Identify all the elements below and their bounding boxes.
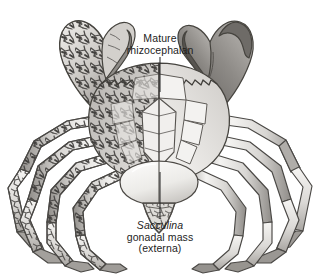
- label-sacculina-gonadal-mass: Sacculina gonadal mass (externa): [112, 220, 208, 255]
- label-mature-rhizocephalan: Mature rhizocephalan: [118, 33, 202, 56]
- figure-root: Mature rhizocephalan Sacculina gonadal m…: [0, 0, 319, 275]
- label-mature-line1: Mature: [118, 33, 202, 45]
- label-mature-line2: rhizocephalan: [118, 45, 202, 57]
- label-sacculina-genus: Sacculina: [112, 220, 208, 232]
- label-sacculina-line3: (externa): [112, 243, 208, 255]
